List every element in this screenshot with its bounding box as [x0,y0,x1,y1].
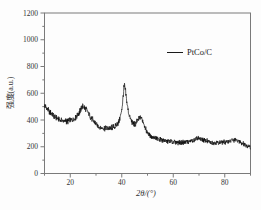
y-axis-label: 强度(a.u.) [4,77,15,110]
x-tick-label: 60 [170,178,178,187]
y-tick-label: 1200 [23,9,38,18]
y-tick-label: 200 [27,142,39,151]
y-tick-label: 1000 [23,35,38,44]
legend: PtCo/C [167,47,212,57]
legend-label: PtCo/C [187,47,212,57]
x-tick-label: 20 [67,178,75,187]
y-tick-label: 800 [27,62,39,71]
y-tick-label: 400 [27,116,39,125]
chart-canvas: 02004006008001000120020406080 [0,0,261,210]
legend-line-icon [167,52,183,53]
xrd-trace [45,83,251,149]
x-tick-label: 80 [221,178,229,187]
y-tick-label: 600 [27,89,39,98]
y-tick-label: 0 [34,169,38,178]
plot-frame [45,13,251,174]
xrd-figure: 02004006008001000120020406080 强度(a.u.) 2… [0,0,261,210]
x-axis-label: 2θ/(°) [136,188,156,198]
x-tick-label: 40 [118,178,126,187]
